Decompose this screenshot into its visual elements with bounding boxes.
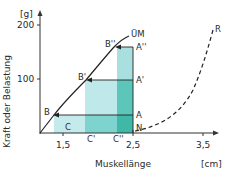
label-b2: B'' bbox=[105, 39, 116, 49]
label-um: ÜM bbox=[131, 29, 145, 39]
label-c2: C'' bbox=[113, 134, 124, 144]
x-axis-arrow-icon bbox=[213, 131, 219, 136]
x-tick-label-3-5: 3,5 bbox=[196, 140, 210, 150]
x-tick-label-1-5: 1,5 bbox=[56, 140, 70, 150]
label-c: C bbox=[65, 122, 71, 132]
y-tick-label-100: 100 bbox=[17, 74, 34, 84]
y-unit-label: [g] bbox=[20, 9, 33, 19]
curve-r bbox=[135, 30, 213, 131]
y-axis-label: Kraft oder Belastung bbox=[2, 55, 12, 148]
label-n: N bbox=[136, 123, 142, 133]
label-a1: A' bbox=[136, 75, 144, 85]
x-unit-label: [cm] bbox=[201, 159, 222, 169]
y-axis-arrow-icon bbox=[38, 10, 43, 16]
x-tick-label-2-5: 2,5 bbox=[126, 140, 140, 150]
label-c1: C' bbox=[87, 134, 95, 144]
label-a2: A'' bbox=[136, 42, 147, 52]
shade-region-c1-lower bbox=[85, 115, 117, 133]
y-tick-label-200: 200 bbox=[17, 20, 34, 30]
x-axis-label: Muskellänge bbox=[95, 159, 152, 169]
label-r: R bbox=[215, 24, 221, 34]
label-a: A bbox=[136, 110, 142, 120]
shade-region-c2-low bbox=[117, 115, 133, 133]
force-length-diagram: [g] 200 100 Kraft oder Belastung 1,5 2,5… bbox=[0, 0, 233, 175]
label-b: B bbox=[44, 107, 50, 117]
label-b1: B' bbox=[78, 72, 86, 82]
